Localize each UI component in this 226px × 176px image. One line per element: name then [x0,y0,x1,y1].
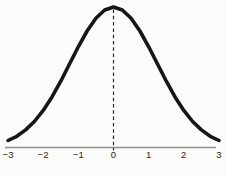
x-tick-label: −2 [38,149,49,160]
x-tick-label: 1 [146,149,151,160]
x-tick-label: −3 [2,149,13,160]
x-tick-label: −1 [73,149,84,160]
x-tick-label: 0 [111,149,116,160]
normal-curve-figure: −3 −2 −1 0 1 2 3 [0,0,226,176]
x-tick-label: 2 [181,149,186,160]
x-tick-label: 3 [216,149,221,160]
